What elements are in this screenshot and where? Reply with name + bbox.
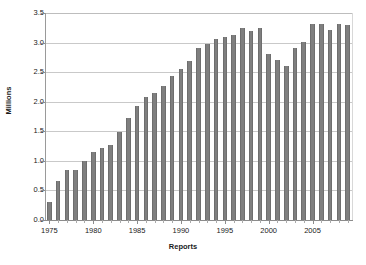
x-axis-tick-mark [199, 220, 200, 223]
x-axis-tick-mark [234, 220, 235, 223]
x-axis-tick-mark [190, 220, 191, 223]
y-axis-tick-label: 2.0 [4, 98, 44, 106]
bar[interactable] [56, 181, 61, 220]
x-axis-tick-mark [339, 220, 340, 223]
x-axis-tick-mark [49, 220, 50, 224]
bar[interactable] [170, 76, 175, 220]
x-axis-label-group: 1975198019851990199520002005 [0, 226, 366, 238]
x-axis-tick-mark [163, 220, 164, 223]
bar[interactable] [319, 24, 324, 220]
bar[interactable] [82, 161, 87, 220]
x-axis-tick-mark [216, 220, 217, 223]
x-axis-tick-mark [181, 220, 182, 224]
x-axis-tick-mark [155, 220, 156, 223]
bar[interactable] [117, 132, 122, 220]
bar[interactable] [196, 48, 201, 220]
y-axis-tick-label: 1.5 [4, 127, 44, 135]
x-axis-tick-mark [120, 220, 121, 223]
x-axis-tick-mark [172, 220, 173, 223]
x-axis-tick-label: 1975 [34, 226, 64, 235]
x-axis-tick-label: 1985 [122, 226, 152, 235]
x-axis-tick-mark [146, 220, 147, 223]
x-axis-tick-label: 2005 [298, 226, 328, 235]
y-axis-tick-label: 3.5 [4, 9, 44, 17]
bar[interactable] [214, 39, 219, 220]
x-axis-tick-label: 2000 [254, 226, 284, 235]
bar[interactable] [152, 93, 157, 220]
x-axis-tick-mark [207, 220, 208, 223]
x-axis-tick-mark [260, 220, 261, 223]
y-axis-tick-label: 2.5 [4, 68, 44, 76]
x-axis-tick-mark [84, 220, 85, 223]
y-axis-tick-label: 3.0 [4, 39, 44, 47]
bar[interactable] [91, 152, 96, 220]
x-axis-tick-mark [137, 220, 138, 224]
x-axis-tick-label: 1980 [78, 226, 108, 235]
bar[interactable] [337, 24, 342, 220]
x-axis-tick-mark [251, 220, 252, 223]
bar[interactable] [205, 44, 210, 220]
bar[interactable] [275, 60, 280, 220]
x-axis-tick-mark [277, 220, 278, 223]
x-axis-tick-mark [313, 220, 314, 224]
bar[interactable] [65, 170, 70, 220]
bar[interactable] [187, 61, 192, 220]
y-axis-tick-label: 0.0 [4, 216, 44, 224]
bar[interactable] [135, 106, 140, 220]
bar[interactable] [73, 170, 78, 220]
x-axis-tick-mark [348, 220, 349, 223]
bar[interactable] [179, 69, 184, 220]
bar[interactable] [231, 35, 236, 220]
bar[interactable] [223, 37, 228, 220]
bar[interactable] [310, 24, 315, 220]
bar[interactable] [126, 118, 131, 220]
x-axis-tick-label: 1995 [210, 226, 240, 235]
y-axis-tick-label: 1.0 [4, 157, 44, 165]
x-axis-tick-mark [330, 220, 331, 223]
x-axis-tick-mark [58, 220, 59, 223]
x-axis-tick-mark [67, 220, 68, 223]
bar[interactable] [144, 97, 149, 220]
y-axis-tick-label: 0.5 [4, 186, 44, 194]
x-axis-tick-mark [225, 220, 226, 224]
bar[interactable] [345, 25, 350, 220]
bar[interactable] [249, 31, 254, 220]
x-axis-tick-label: 1990 [166, 226, 196, 235]
x-axis-title: Reports [0, 242, 366, 251]
bar[interactable] [100, 148, 105, 220]
bar[interactable] [240, 28, 245, 220]
x-axis-tick-mark [321, 220, 322, 223]
bar[interactable] [108, 145, 113, 220]
bar[interactable] [258, 28, 263, 220]
bar[interactable] [266, 54, 271, 220]
bar[interactable] [328, 30, 333, 220]
x-axis-tick-mark [93, 220, 94, 224]
x-axis-tick-mark [102, 220, 103, 223]
bar-series [45, 13, 352, 220]
x-axis-tick-mark [111, 220, 112, 223]
bar[interactable] [293, 48, 298, 220]
x-axis-tick-mark [128, 220, 129, 223]
x-axis-tick-mark [295, 220, 296, 223]
x-axis-tick-mark [76, 220, 77, 223]
x-axis-tick-mark [286, 220, 287, 223]
plot-right-edge [352, 13, 353, 221]
bar[interactable] [284, 66, 289, 220]
bar[interactable] [301, 42, 306, 220]
bar-chart: Millions 0.00.51.01.52.02.53.03.5 197519… [0, 0, 366, 265]
x-axis-tick-mark [242, 220, 243, 223]
x-axis-tick-mark [304, 220, 305, 223]
x-axis-tick-mark [269, 220, 270, 224]
bar[interactable] [161, 86, 166, 220]
bar[interactable] [47, 202, 52, 220]
